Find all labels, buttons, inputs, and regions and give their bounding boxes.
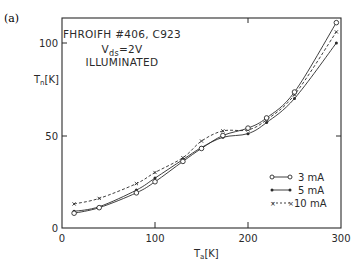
data-point-marker — [265, 121, 268, 124]
legend-item-3mA: 3 mA — [270, 172, 324, 183]
data-point-marker — [264, 116, 269, 121]
annotation-sample: FHROIFH #406, C923 — [63, 28, 181, 40]
data-point-marker — [293, 97, 296, 100]
legend-item-5mA: 5 mA — [271, 185, 325, 196]
y-tick-50: 50 — [45, 131, 58, 142]
data-point-marker — [335, 42, 338, 45]
data-point-marker — [246, 126, 251, 131]
data-point-marker — [135, 182, 138, 185]
legend-item-10mA: × × 10 mA — [270, 198, 327, 209]
x-tick-0: 0 — [59, 233, 65, 244]
svg-text:×: × — [270, 200, 276, 208]
data-point-marker — [200, 139, 203, 142]
legend-label-5mA: 5 mA — [298, 185, 324, 196]
data-point-marker — [134, 191, 139, 196]
legend-label-3mA: 3 mA — [298, 172, 324, 183]
data-point-marker — [153, 179, 158, 184]
annotation-condition: ILLUMINATED — [86, 56, 159, 68]
panel-label: (a) — [4, 12, 19, 25]
series-line — [74, 43, 336, 211]
data-point-marker — [72, 211, 77, 216]
data-point-marker — [97, 205, 102, 210]
data-point-marker — [199, 146, 204, 151]
x-axis-label: Ta[K] — [193, 248, 219, 261]
svg-text:×: × — [288, 200, 294, 208]
chart-annotation: FHROIFH #406, C923 Vds=2V ILLUMINATED — [63, 28, 181, 68]
legend: 3 mA 5 mA × × 10 mA — [270, 172, 327, 209]
legend-label-10mA: 10 mA — [294, 198, 327, 209]
x-tick-300: 300 — [331, 233, 350, 244]
chart-figure: (a) 100 50 0 Tn[K] 0 100 200 300 Ta[K] F… — [0, 0, 361, 269]
y-axis-label: Tn[K] — [33, 74, 59, 87]
data-point-marker — [221, 133, 226, 138]
data-point-marker — [181, 159, 186, 164]
data-point-marker — [334, 20, 339, 25]
data-point-marker — [247, 132, 250, 135]
y-tick-0: 0 — [52, 223, 58, 234]
data-point-marker — [335, 30, 338, 33]
x-tick-100: 100 — [145, 233, 164, 244]
y-tick-100: 100 — [39, 38, 58, 49]
data-point-marker — [153, 171, 156, 174]
x-tick-200: 200 — [238, 233, 257, 244]
data-point-marker — [292, 90, 297, 95]
